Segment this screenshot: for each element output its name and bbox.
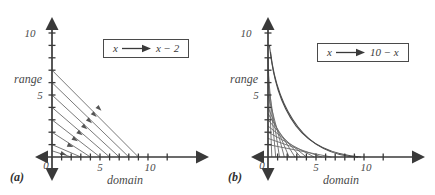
formula-input: x: [327, 46, 332, 58]
figure-panel-a: 10 5 0 5 10 range domain x x − 2 (a): [0, 0, 217, 195]
formula-input: x: [113, 42, 118, 54]
x-axis-arrow-right-icon: [412, 151, 425, 164]
panel-a-plot: 10 5 0 5 10 range domain: [0, 0, 217, 195]
panel-caption-a: (a): [10, 170, 24, 185]
x-axis-arrow-right-icon: [196, 151, 209, 164]
y-tick-label-5: 5: [253, 89, 259, 101]
y-axis-arrow-up-icon: [46, 17, 59, 30]
x-axis-label: domain: [323, 173, 359, 187]
mapping-ray: [268, 138, 322, 157]
x-tick-label-5: 5: [313, 161, 319, 173]
origin-label: 0: [43, 159, 49, 171]
y-axis-label: range: [230, 72, 259, 86]
x-tick-label-10: 10: [145, 161, 157, 173]
y-axis-arrow-up-icon: [262, 17, 275, 30]
panel-b-plot: 10 5 0 5 10 range domain: [218, 0, 435, 195]
arrow-right-icon: [96, 105, 103, 112]
origin-label: 0: [259, 159, 265, 171]
arrow-right-icon: [122, 44, 152, 53]
mapping-ray: [52, 107, 110, 157]
formula-box-a: x x − 2: [103, 39, 189, 58]
formula-box-b: x 10 − x: [317, 43, 409, 62]
x-tick-label-5: 5: [97, 161, 103, 173]
y-tick-label-10: 10: [25, 27, 37, 39]
mapping-ray: [52, 70, 138, 157]
x-axis-label: domain: [107, 173, 143, 187]
panel-caption-b: (b): [228, 170, 242, 185]
arrow-right-icon: [336, 48, 366, 57]
panel-b-ray-group: [268, 58, 331, 157]
y-axis-label: range: [14, 72, 43, 86]
panel-a-ray-group: [52, 70, 138, 157]
mapping-ray: [52, 83, 129, 157]
mapping-ray: [52, 120, 100, 157]
x-tick-label-10: 10: [361, 161, 373, 173]
formula-output: x − 2: [156, 42, 179, 54]
y-tick-label-5: 5: [37, 89, 43, 101]
formula-output: 10 − x: [370, 46, 399, 58]
figure-panel-b: 10 5 0 5 10 range domain x 10 − x (b): [218, 0, 435, 195]
y-tick-label-10: 10: [241, 27, 253, 39]
